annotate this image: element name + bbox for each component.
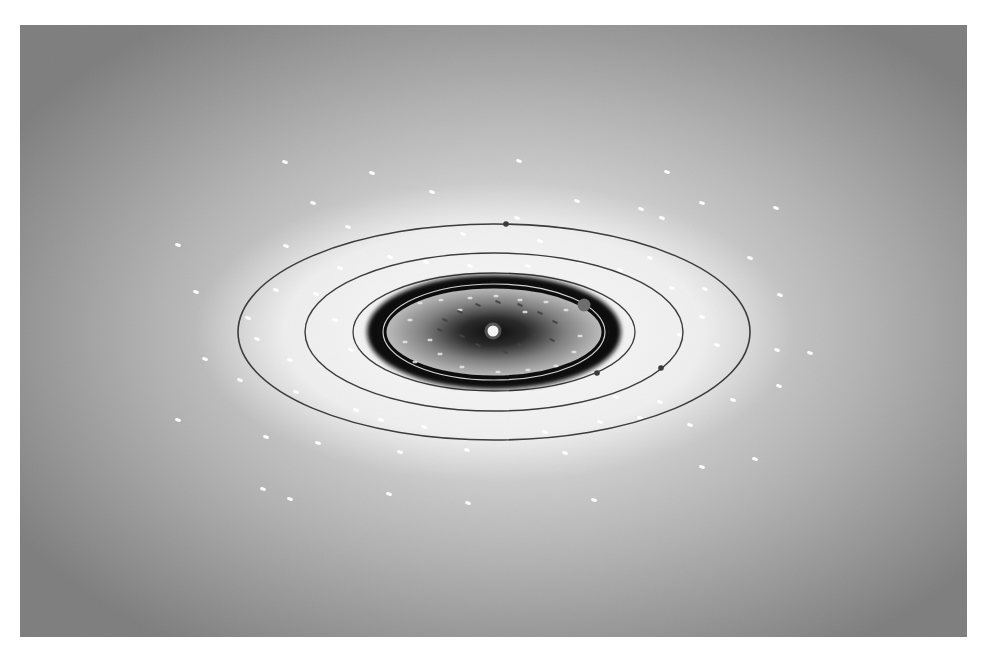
inner-star-dash [496,371,501,373]
sun [488,326,499,337]
inner-star-dash [578,335,583,337]
solar-system-illustration [0,0,986,654]
inner-star-dash [428,339,433,341]
inner-star-dash [564,309,569,311]
inner-star-dash [554,365,559,367]
inner-star-dash [572,351,577,353]
planet-outer-top [503,221,509,227]
inner-star-dash [526,369,531,371]
inner-star-dash [518,299,523,301]
inner-star-dash [460,366,465,368]
inner-star-dash [408,319,413,321]
inner-star-dash [438,353,443,355]
inner-star-dash [439,299,444,301]
planet-third-orbit [594,370,600,376]
inner-star-dash [544,301,549,303]
inner-star-dash [418,302,423,304]
inner-star-dash [494,295,499,297]
planet-second-orbit [658,365,664,371]
inner-star-dash [413,361,418,363]
inner-star-dash [403,341,408,343]
inner-star-dash [468,297,473,299]
inner-star-dash [523,311,528,313]
planet-inner-ring [578,299,591,312]
